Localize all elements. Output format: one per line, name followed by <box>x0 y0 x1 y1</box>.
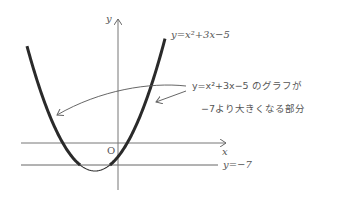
origin-label: O <box>107 145 115 156</box>
x-axis-label: x <box>222 146 228 157</box>
line-label: y=−7 <box>222 159 252 170</box>
annotation-line1: y=x²+3x−5 のグラフが <box>192 80 302 91</box>
annotation-line2: −7より大きくなる部分 <box>201 103 305 114</box>
parabola-thin-portion <box>80 165 110 171</box>
y-axis-label: y <box>105 13 112 24</box>
annotation-arrow-right <box>156 91 186 102</box>
annotation-arrow-left <box>57 85 186 115</box>
curve-equation-label: y=x²+3x−5 <box>170 29 230 40</box>
parabola-diagram: y x O y=x²+3x−5 y=−7 y=x²+3x−5 のグラフが −7よ… <box>0 0 356 200</box>
parabola-thick-left <box>27 46 80 165</box>
